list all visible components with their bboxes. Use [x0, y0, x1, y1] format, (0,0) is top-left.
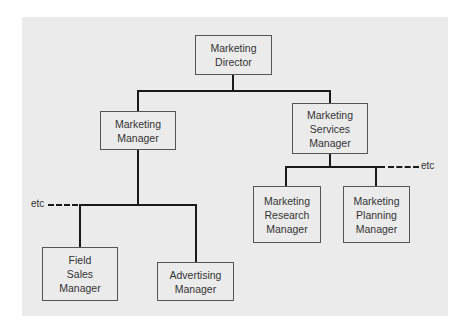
- node-label-line: Sales: [67, 267, 93, 281]
- connector-to-services-manager: [329, 90, 331, 103]
- connector-to-research: [285, 166, 287, 186]
- connector-to-field-sales: [79, 204, 81, 247]
- node-label-line: Marketing: [353, 194, 399, 208]
- node-label-line: Field: [69, 253, 92, 267]
- node-advertising-manager: Advertising Manager: [157, 262, 234, 301]
- node-marketing-director: Marketing Director: [195, 35, 272, 75]
- connector-top-horizontal: [137, 90, 331, 92]
- continuation-dash-left: [48, 204, 78, 206]
- connector-right-horizontal: [285, 166, 385, 168]
- connector-to-advertising: [195, 204, 197, 262]
- node-label-line: Manager: [117, 131, 158, 145]
- continuation-dash-right: [388, 166, 419, 168]
- node-label-line: Manager: [266, 222, 307, 236]
- node-marketing-planning-manager: Marketing Planning Manager: [343, 186, 410, 243]
- node-label-line: Director: [215, 55, 252, 69]
- node-label-line: Planning: [356, 208, 397, 222]
- node-label-line: Services: [310, 122, 350, 136]
- continuation-label-left: etc: [31, 198, 44, 209]
- node-label-line: Marketing: [115, 117, 161, 131]
- connector-left-horizontal: [79, 204, 197, 206]
- node-label-line: Manager: [309, 136, 350, 150]
- node-marketing-research-manager: Marketing Research Manager: [253, 186, 321, 243]
- node-label-line: Marketing: [210, 41, 256, 55]
- node-label-line: Manager: [356, 222, 397, 236]
- node-label-line: Manager: [175, 282, 216, 296]
- connector-to-marketing-manager: [137, 90, 139, 111]
- connector-marketing-manager-down: [137, 149, 139, 206]
- node-label-line: Manager: [59, 281, 100, 295]
- node-marketing-services-manager: Marketing Services Manager: [292, 103, 368, 154]
- connector-to-planning: [375, 166, 377, 186]
- node-label-line: Advertising: [170, 268, 222, 282]
- node-field-sales-manager: Field Sales Manager: [42, 247, 118, 301]
- node-label-line: Marketing: [307, 108, 353, 122]
- node-label-line: Research: [265, 208, 310, 222]
- node-label-line: Marketing: [264, 194, 310, 208]
- continuation-label-right: etc: [421, 160, 434, 171]
- node-marketing-manager: Marketing Manager: [100, 111, 176, 150]
